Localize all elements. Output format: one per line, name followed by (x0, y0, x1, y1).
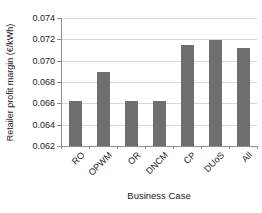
bar-ro (69, 101, 82, 146)
gridline (61, 61, 257, 62)
bar-dncm (153, 101, 166, 146)
bar-opwm (97, 72, 110, 146)
x-tick-label: DNCM (144, 150, 170, 176)
y-tick-label: 0.066 (23, 98, 55, 108)
x-tick-label: RO (69, 150, 86, 167)
bar-or (125, 101, 138, 146)
bar-duos (209, 40, 222, 146)
y-axis-title: Retailer profit margin (€/kWh) (4, 8, 17, 158)
bar-cp (181, 45, 194, 146)
gridline (61, 82, 257, 83)
y-axis-line (61, 18, 62, 146)
y-tick-label: 0.062 (23, 141, 55, 151)
x-tick-label: DUoS (202, 150, 226, 174)
x-tick-label: CP (182, 150, 198, 166)
y-tick-label: 0.068 (23, 77, 55, 87)
y-tick-label: 0.064 (23, 120, 55, 130)
gridline (61, 18, 257, 19)
x-tick-label: OPWM (86, 150, 114, 178)
y-tick-label: 0.070 (23, 56, 55, 66)
x-tick (257, 146, 258, 149)
y-tick-label: 0.072 (23, 34, 55, 44)
x-tick-label: OR (125, 150, 142, 167)
y-tick-label: 0.074 (23, 13, 55, 23)
retailer-profit-margin-bar-chart: Retailer profit margin (€/kWh) Business … (0, 0, 262, 213)
bar-all (237, 48, 250, 146)
x-axis-line (61, 146, 257, 147)
x-axis-title: Business Case (61, 190, 257, 201)
x-tick-label: All (240, 150, 254, 164)
gridline (61, 39, 257, 40)
